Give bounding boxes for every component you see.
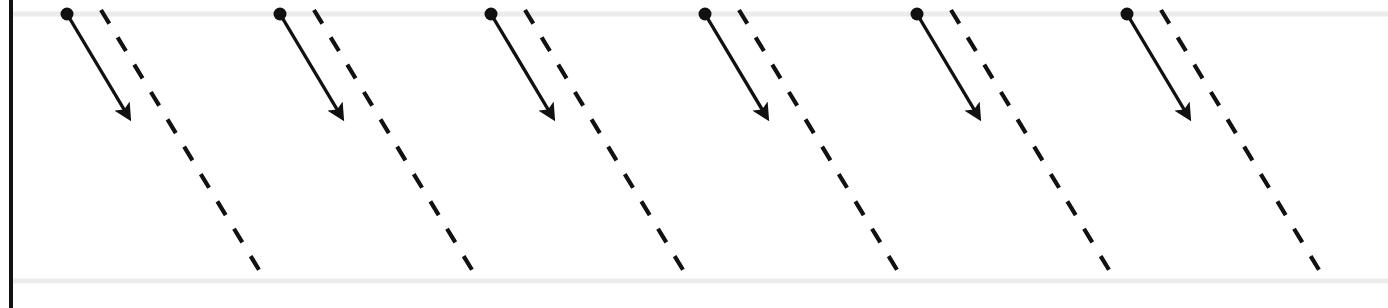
dot-marker-5 (911, 8, 924, 21)
dot-marker-4 (699, 8, 712, 21)
dot-marker-6 (1121, 8, 1134, 21)
diagram-svg (0, 0, 1388, 308)
diagram-canvas (0, 0, 1388, 308)
dot-marker-3 (485, 8, 498, 21)
diagram-background (0, 0, 1388, 308)
dot-marker-2 (274, 8, 287, 21)
dot-marker-1 (61, 8, 74, 21)
